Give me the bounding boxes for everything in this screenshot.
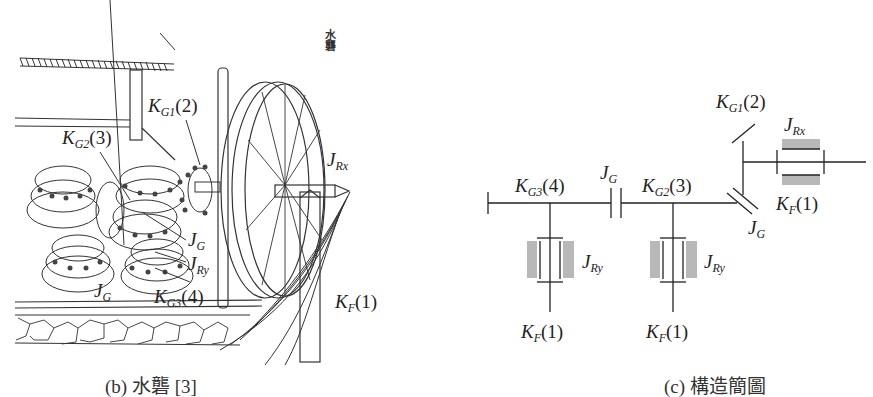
label-kf-right-c: KF(1): [646, 322, 688, 344]
label-jg-diag-c: JG: [748, 218, 765, 240]
bevel-gear-2: [733, 188, 758, 209]
label-kg3-c: KG3(4): [515, 176, 565, 198]
label-jry-right-c: JRy: [704, 252, 725, 274]
label-jry-left-c: JRy: [582, 252, 603, 274]
structure-schematic: [0, 0, 873, 397]
label-kg1-c: KG1(2): [716, 92, 766, 114]
label-jg-mid-c: JG: [600, 163, 617, 185]
label-kf-left-c: KF(1): [521, 322, 563, 344]
label-kf-top-c: KF(1): [776, 194, 818, 216]
label-kg2-c: KG2(3): [642, 176, 692, 198]
kg1-gear: [732, 124, 755, 143]
label-jrx-c: JRx: [784, 115, 805, 137]
caption-c: (c) 構造簡圖: [664, 371, 766, 397]
